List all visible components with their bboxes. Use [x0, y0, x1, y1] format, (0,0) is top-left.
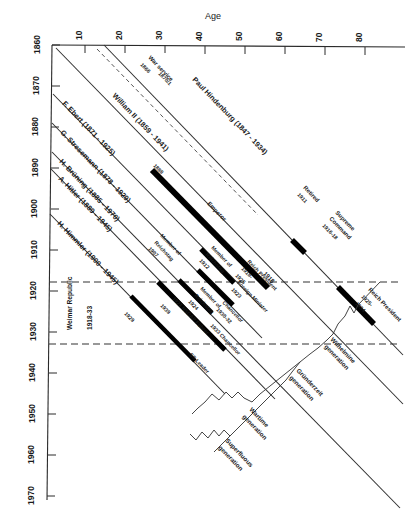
year-tick-label: 1860	[32, 35, 42, 54]
generation-label-wilhelmine: Wilhelmine generation	[323, 336, 358, 372]
event-label: 1939	[159, 303, 172, 316]
age-tick-60: 60	[274, 31, 285, 54]
age-tick-80: 80	[354, 32, 365, 55]
generation-boundary-superfluous	[190, 430, 230, 440]
age-axis: 10 20 30 40 50 60 70 80 Age	[52, 11, 405, 55]
year-tick-label: 1870	[31, 76, 41, 95]
year-tick-label: 1950	[27, 404, 37, 423]
age-tick-label: 10	[74, 30, 84, 40]
event-label: SS Leader	[188, 352, 210, 375]
year-tick-label: 1940	[27, 363, 37, 382]
year-axis: 1860 1870 1880 1890 1900 1910 1920 1930	[26, 35, 60, 505]
event-sub: 1911	[296, 192, 308, 204]
year-tick-label: 1930	[28, 322, 38, 341]
year-tick-1950: 1950	[27, 404, 56, 423]
event-sub: 1866	[139, 62, 152, 75]
age-tick-10: 10	[74, 30, 85, 53]
person-label: William II (1859 - 1941)	[111, 91, 172, 153]
year-tick-label: 1880	[30, 117, 40, 136]
age-tick-40: 40	[194, 31, 205, 54]
year-axis-line	[47, 45, 52, 500]
year-tick-1890: 1890	[30, 158, 59, 177]
generation-boundary-wartime	[192, 392, 252, 414]
lexis-diagram-figure: 10 20 30 40 50 60 70 80 Age	[0, 0, 417, 525]
year-tick-1970: 1970	[26, 486, 55, 505]
year-tick-label: 1970	[26, 486, 36, 505]
event-war-service: War service 1866 1870/1	[139, 55, 175, 87]
diagram-canvas: 10 20 30 40 50 60 70 80 Age	[0, 0, 417, 525]
year-tick-label: 1900	[29, 199, 39, 218]
age-tick-label: 70	[314, 32, 324, 42]
age-tick-30: 30	[154, 30, 165, 53]
year-tick-1960: 1960	[26, 445, 56, 464]
age-tick-label: 30	[154, 30, 164, 40]
age-tick-label: 60	[274, 31, 284, 41]
event-member-reichstag-stresemann: Member of Reichstag 1907	[147, 233, 182, 262]
year-tick-label: 1920	[28, 281, 38, 300]
age-tick-label: 40	[194, 31, 204, 41]
year-tick-label: 1960	[26, 445, 36, 464]
age-tick-label: 50	[234, 31, 244, 41]
age-tick-70: 70	[314, 32, 325, 55]
age-tick-20: 20	[114, 30, 125, 53]
event-sub: 1929	[123, 311, 136, 324]
year-tick-1940: 1940	[27, 363, 57, 382]
event-emperor: Emperor 1888	[152, 163, 228, 223]
weimar-republic-years: 1918-33	[86, 305, 93, 330]
generation-label-superfluous: Superfluous generation	[217, 437, 256, 473]
person-label: Paul Hindenburg (1847 - 1934)	[191, 75, 270, 157]
age-axis-title: Age	[205, 11, 221, 21]
tenure-bar-emperor	[152, 170, 268, 288]
year-tick-1860: 1860	[32, 35, 60, 54]
weimar-republic-label: Weimar Republic	[66, 276, 74, 330]
year-tick-1930: 1930	[28, 322, 57, 341]
year-tick-1920: 1920	[28, 281, 58, 300]
year-tick-1900: 1900	[29, 199, 59, 218]
year-tick-1910: 1910	[29, 240, 58, 259]
tenure-bar-supreme-command	[292, 240, 305, 253]
event-label: Emperor	[206, 201, 228, 223]
age-tick-label: 20	[114, 30, 124, 40]
person-label: F. Ebert (1871 - 1925)	[61, 99, 118, 158]
event-reich-president-hindenburg: Reich President 1925- 1934	[354, 287, 402, 323]
event-1939: 1939	[159, 303, 172, 316]
event-retired: Retired 1911	[296, 185, 321, 204]
age-tick-50: 50	[234, 31, 245, 54]
year-tick-1870: 1870	[31, 76, 60, 95]
year-tick-label: 1890	[30, 158, 40, 177]
generation-label-wartime: Wartime generation	[241, 406, 271, 442]
event-supreme-command: Supreme Command 1916-18	[321, 210, 356, 241]
generation-label-grunderzeit: Gründerzeit generation	[288, 367, 326, 403]
year-tick-label: 1910	[29, 240, 39, 259]
age-tick-label: 80	[354, 32, 364, 42]
